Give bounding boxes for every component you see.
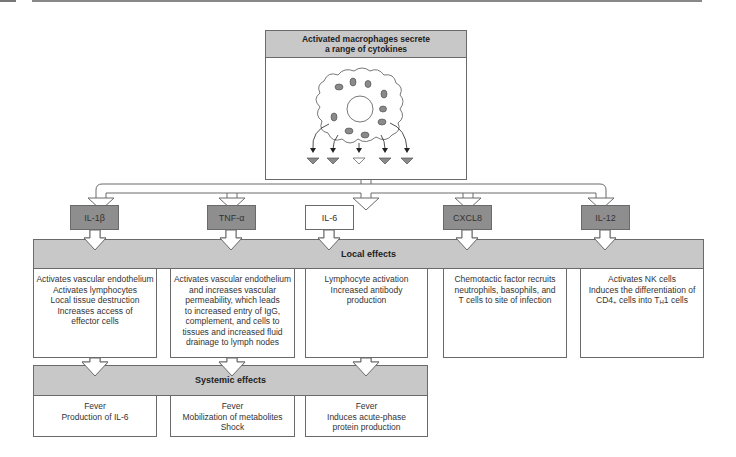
systemic-arrows-overlay	[0, 0, 736, 457]
